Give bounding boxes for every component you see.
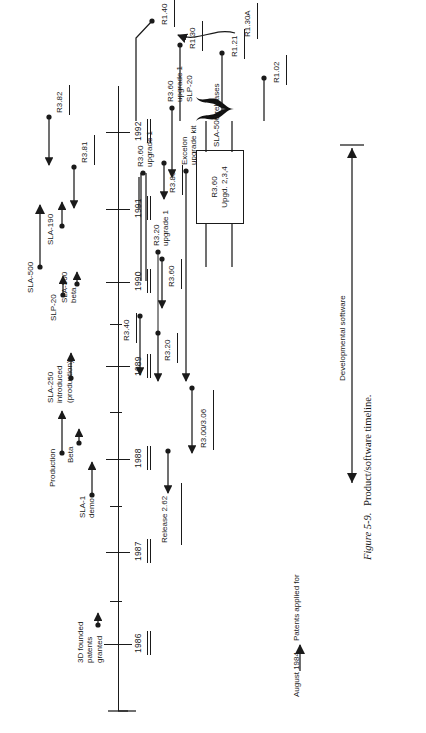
- product-software-timeline-figure: 1986 1987 1988 1989 1990 1991 1992: [0, 0, 426, 733]
- figure-caption: Figure 5-9. Product/software timeline.: [362, 395, 373, 560]
- axis-upgrade-runs: [0, 0, 426, 733]
- figure-caption-number: Figure 5-9.: [362, 513, 373, 560]
- figure-caption-text: Product/software timeline.: [362, 395, 373, 506]
- rotated-diagram-stage: 1986 1987 1988 1989 1990 1991 1992: [0, 0, 426, 733]
